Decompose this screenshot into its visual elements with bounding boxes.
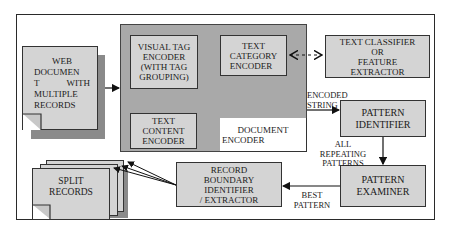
record-boundary-node: RECORD BOUNDARY IDENTIFIER / EXTRACTOR bbox=[176, 162, 282, 207]
edge-label-all-repeating-patterns: ALL REPEATING PATTERNS bbox=[318, 140, 368, 169]
pattern-examiner-node: PATTERN EXAMINER bbox=[340, 165, 426, 207]
text-category-encoder-node: TEXT CATEGORY ENCODER bbox=[220, 35, 287, 76]
pattern-identifier-node: PATTERN IDENTIFIER bbox=[340, 100, 426, 137]
edge-label-best-pattern: BEST PATTERN bbox=[292, 191, 332, 210]
text-content-encoder-node: TEXT CONTENT ENCODER bbox=[130, 113, 197, 149]
text-classifier-node: TEXT CLASSIFIER OR FEATURE EXTRACTOR bbox=[325, 35, 430, 78]
visual-tag-encoder-node: VISUAL TAG ENCODER (WITH TAG GROUPING) bbox=[130, 35, 198, 89]
edge-label-encoded-string: ENCODED STRING bbox=[307, 91, 351, 110]
split-records-label: SPLIT RECORDS bbox=[34, 176, 108, 198]
web-document-label: WEB DOCUMEN TWITH MULTIPLE RECORDS bbox=[34, 56, 90, 111]
document-encoder-node: DOCUMENT ENCODER bbox=[220, 118, 307, 152]
